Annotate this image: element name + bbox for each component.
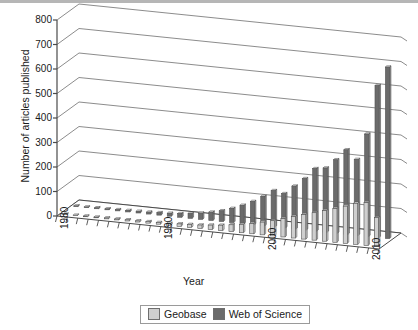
legend-item-geobase: Geobase: [148, 308, 207, 320]
x-axis-tick-1990: 1990: [163, 217, 174, 239]
legend-label-web-of-science: Web of Science: [229, 308, 302, 320]
x-axis-tick-1980: 1980: [59, 206, 70, 228]
legend-swatch-web-of-science: [213, 308, 225, 320]
figure-container: Number of articles published Year 010020…: [0, 0, 418, 330]
x-axis-tick-2000: 2000: [267, 228, 278, 250]
x-axis-tick-2010: 2010: [371, 238, 382, 260]
chart-svg: [0, 3, 418, 330]
legend-item-web-of-science: Web of Science: [213, 308, 302, 320]
legend-label-geobase: Geobase: [164, 308, 207, 320]
legend-swatch-geobase: [148, 308, 160, 320]
plot-area: [0, 3, 418, 330]
chart-legend: Geobase Web of Science: [140, 305, 310, 324]
